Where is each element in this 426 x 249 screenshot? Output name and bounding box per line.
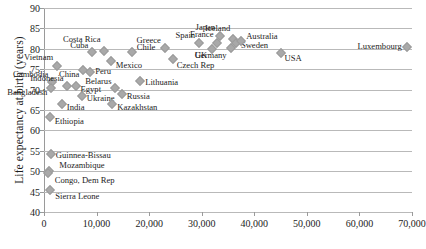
x-tick-label: 20,000: [135, 218, 163, 229]
data-point[interactable]: [100, 46, 110, 56]
data-point-label: Greece: [137, 36, 161, 45]
y-tick-label: 90: [30, 3, 40, 14]
x-tick-label: 50,000: [293, 218, 321, 229]
y-tick-label: 45: [30, 186, 40, 197]
y-tick-label: 40: [30, 207, 40, 218]
y-tick-mark: [40, 130, 44, 131]
data-point-label: Ethiopia: [55, 117, 84, 126]
gridline: [44, 8, 412, 9]
data-point-label: Iceland: [205, 24, 230, 33]
x-tick-label: 0: [42, 218, 47, 229]
y-tick-label: 50: [30, 166, 40, 177]
plot-area: 4045505560657075808590 010,00020,00030,0…: [44, 8, 412, 212]
data-point-label: Vietnam: [24, 53, 53, 62]
y-tick-mark: [40, 192, 44, 193]
data-point-label: Lithuania: [145, 78, 178, 87]
y-tick-mark: [40, 8, 44, 9]
data-point-label: India: [67, 103, 85, 112]
data-point-label: Belarus: [85, 77, 111, 86]
data-point[interactable]: [107, 99, 117, 109]
data-point-label: Germany: [195, 51, 227, 60]
data-point-label: USA: [285, 54, 302, 63]
data-point[interactable]: [117, 90, 127, 100]
data-point-label: Luxembourg: [358, 42, 402, 51]
data-point-label: Mozambique: [59, 161, 104, 170]
data-point-label: China: [59, 70, 80, 79]
data-point[interactable]: [402, 42, 412, 52]
data-point[interactable]: [160, 43, 170, 53]
data-point[interactable]: [194, 38, 204, 48]
y-tick-mark: [40, 28, 44, 29]
x-tick-mark: [97, 212, 98, 216]
x-tick-label: 30,000: [188, 218, 216, 229]
data-point[interactable]: [45, 185, 55, 195]
x-tick-label: 40,000: [241, 218, 269, 229]
data-point-label: Kazakhstan: [117, 103, 157, 112]
y-tick-label: 85: [30, 23, 40, 34]
data-point-label: Australia: [246, 32, 278, 41]
x-tick-mark: [149, 212, 150, 216]
data-point-label: Bangladesh: [7, 88, 47, 97]
data-point-label: Sierra Leone: [55, 192, 99, 201]
y-tick-label: 65: [30, 105, 40, 116]
gridline: [44, 212, 412, 213]
y-tick-label: 60: [30, 125, 40, 136]
y-tick-mark: [40, 49, 44, 50]
x-tick-label: 10,000: [83, 218, 111, 229]
data-point[interactable]: [106, 56, 116, 66]
x-tick-mark: [44, 212, 45, 216]
data-point-label: Costa Rica: [63, 35, 100, 44]
data-point-label: Guinnea-Bissau: [56, 151, 111, 160]
y-tick-label: 55: [30, 145, 40, 156]
data-point[interactable]: [135, 76, 145, 86]
x-tick-label: 70,000: [398, 218, 426, 229]
data-point[interactable]: [46, 83, 56, 93]
x-tick-mark: [254, 212, 255, 216]
data-point-label: Peru: [95, 67, 111, 76]
data-point[interactable]: [45, 112, 55, 122]
data-point-label: Russia: [127, 92, 150, 101]
gridline: [44, 130, 412, 131]
y-tick-mark: [40, 151, 44, 152]
data-point-label: Congo, Dem Rep: [55, 176, 115, 185]
gridline: [44, 171, 412, 172]
y-axis-title: Life expectancy at birth (years): [13, 15, 25, 205]
y-tick-mark: [40, 110, 44, 111]
data-point-label: Czech Rep: [177, 61, 214, 70]
data-point-label: Mexico: [116, 61, 142, 70]
data-point-label: Sweden: [241, 41, 268, 50]
gridline: [44, 110, 412, 111]
x-tick-mark: [412, 212, 413, 216]
x-tick-mark: [202, 212, 203, 216]
x-tick-mark: [359, 212, 360, 216]
x-tick-label: 60,000: [346, 218, 374, 229]
data-point[interactable]: [57, 99, 67, 109]
x-tick-mark: [307, 212, 308, 216]
